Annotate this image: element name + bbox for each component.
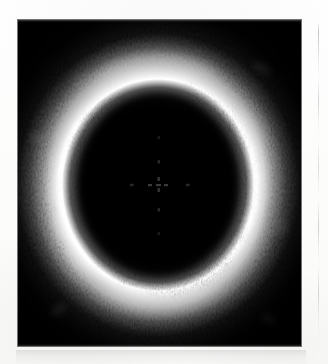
scanned-page <box>0 0 328 364</box>
ivus-image-panel <box>18 20 301 346</box>
ivus-cross-section-image <box>18 20 301 346</box>
column-rule-artifact <box>318 22 319 352</box>
corner-vignette <box>18 20 301 346</box>
caption-band <box>16 350 306 364</box>
